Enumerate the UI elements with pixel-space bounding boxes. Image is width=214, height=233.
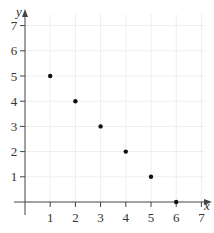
y-axis-arrow-icon [22, 9, 28, 17]
x-tick-label: 1 [47, 210, 54, 225]
data-points [48, 74, 178, 204]
scatter-chart: 1234567 1234567 x y [0, 0, 214, 233]
x-tick-label: 6 [173, 210, 180, 225]
x-tick-label: 3 [97, 210, 104, 225]
y-tick-label: 2 [11, 144, 18, 159]
data-point [73, 99, 77, 103]
x-tick-label: 4 [123, 210, 130, 225]
x-tick-label: 2 [72, 210, 79, 225]
y-tick-label: 1 [11, 169, 18, 184]
y-tick-label: 6 [11, 43, 18, 58]
data-point [149, 175, 153, 179]
y-tick-label: 5 [11, 69, 18, 84]
y-tick-label: 4 [11, 94, 18, 109]
data-point [174, 200, 178, 204]
data-point [48, 74, 52, 78]
x-axis-ticks: 1234567 [47, 202, 205, 225]
y-axis-label: y [14, 4, 22, 19]
data-point [124, 149, 128, 153]
axes [14, 9, 212, 215]
y-axis-ticks: 1234567 [11, 18, 25, 184]
y-tick-label: 3 [11, 119, 18, 134]
x-tick-label: 5 [148, 210, 155, 225]
y-tick-label: 7 [11, 18, 18, 33]
x-axis-label: x [203, 198, 210, 213]
data-point [98, 124, 102, 128]
grid-lines [25, 14, 205, 202]
